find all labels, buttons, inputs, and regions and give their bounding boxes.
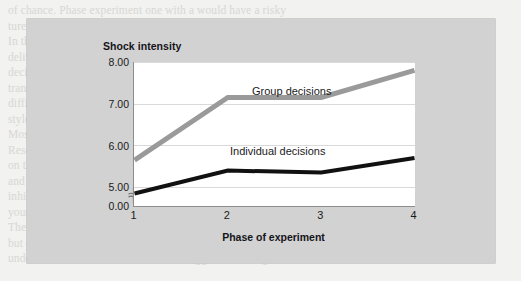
x-axis-tick-label: 3 xyxy=(307,209,333,221)
series-label-group-decisions: Group decisions xyxy=(252,85,332,97)
y-axis-tick-label: 6.00 xyxy=(95,140,129,152)
figure-panel: Shock intensity 8.007.006.005.000.00 Gro… xyxy=(27,19,495,263)
bleed-text-line: of chance. Phase experiment one with a w… xyxy=(8,4,513,16)
x-axis-tick-label: 2 xyxy=(214,209,240,221)
y-axis-tick-label: 5.00 xyxy=(95,181,129,193)
plot-area: Group decisions Individual decisions xyxy=(133,62,415,207)
y-axis-tick-label: 8.00 xyxy=(95,56,129,68)
y-axis-title: Shock intensity xyxy=(103,40,181,52)
y-axis-tick-label: 7.00 xyxy=(95,98,129,110)
x-axis-title: Phase of experiment xyxy=(133,231,414,243)
series-line xyxy=(135,158,415,194)
x-axis-tick-labels: 1234 xyxy=(133,209,414,225)
x-axis-tick-label: 1 xyxy=(121,209,147,221)
y-axis-tick-labels: 8.007.006.005.000.00 xyxy=(89,62,129,206)
x-axis-tick-label: 4 xyxy=(401,209,427,221)
plot-inner xyxy=(134,62,415,206)
series-lines xyxy=(134,62,415,206)
series-label-individual-decisions: Individual decisions xyxy=(230,145,325,157)
